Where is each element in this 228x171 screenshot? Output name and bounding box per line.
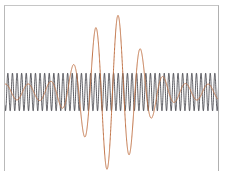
figure-root [0,0,228,171]
plot-frame [4,5,219,171]
wave-plot-canvas [5,6,219,171]
